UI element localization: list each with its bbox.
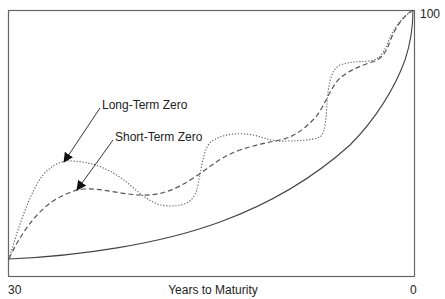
plot-frame [9,11,415,277]
x-tick-0: 0 [410,283,417,297]
long-term-label: Long-Term Zero [102,98,188,112]
y-tick-100: 100 [420,7,440,21]
long-term-zero-curve [9,10,413,259]
long-term-arrow [64,108,100,162]
short-term-label: Short-Term Zero [115,130,203,144]
chart-canvas: Long-Term Zero Short-Term Zero 100 30 0 … [0,0,445,299]
x-axis-title: Years to Maturity [168,283,258,297]
solid-curve [9,10,413,259]
short-term-arrow [77,140,113,190]
x-tick-30: 30 [8,283,22,297]
short-term-zero-curve [9,10,413,259]
